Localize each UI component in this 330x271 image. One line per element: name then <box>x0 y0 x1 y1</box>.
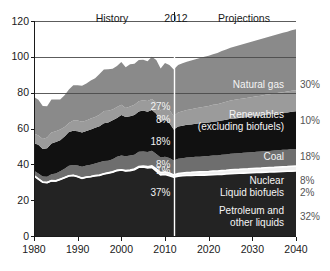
y-tick-label: 40 <box>17 158 29 170</box>
history-label: History <box>96 12 129 24</box>
series-name-label: Renewables <box>229 109 284 120</box>
x-tick-label: 2010 <box>153 243 177 255</box>
series-percent-labels: 30%10%18%8%2%32% <box>300 79 320 222</box>
series-name-label: Natural gas <box>233 79 284 90</box>
series-name-label: Coal <box>263 151 284 162</box>
inline-percent-label: 27% <box>150 101 170 112</box>
y-tick-label: 120 <box>11 15 29 27</box>
divider-year-label: 2012 <box>164 12 188 24</box>
series-percent-label: 2% <box>300 187 315 198</box>
series-name-label: Nuclear <box>250 175 285 186</box>
series-name-label: Liquid biofuels <box>220 187 284 198</box>
y-tick-label: 60 <box>17 122 29 134</box>
stacked-area-chart: 020406080100120 198019902000201020202030… <box>0 0 330 271</box>
x-tick-label: 2000 <box>110 243 134 255</box>
y-tick-label: 20 <box>17 194 29 206</box>
series-percent-label: 18% <box>300 151 320 162</box>
y-tick-label: 100 <box>11 50 29 62</box>
series-name-label-line2: (excluding biofuels) <box>198 121 284 132</box>
y-axis-ticks: 020406080100120 <box>11 15 34 242</box>
y-tick-label: 0 <box>23 230 29 242</box>
series-name-label: Petroleum and <box>219 205 284 216</box>
chart-container: 020406080100120 198019902000201020202030… <box>0 0 330 271</box>
projections-label: Projections <box>218 12 270 24</box>
inline-percent-label: 37% <box>150 187 170 198</box>
inline-percent-label: 8% <box>156 114 171 125</box>
x-axis-ticks: 1980199020002010202020302040 <box>22 237 308 256</box>
x-tick-label: 2030 <box>241 243 265 255</box>
series-percent-label: 30% <box>300 79 320 90</box>
series-percent-label: 10% <box>300 115 320 126</box>
x-tick-label: 2040 <box>284 243 308 255</box>
x-tick-label: 1990 <box>66 243 90 255</box>
series-percent-label: 8% <box>300 175 315 186</box>
series-percent-label: 32% <box>300 211 320 222</box>
x-tick-label: 2020 <box>197 243 221 255</box>
y-tick-label: 80 <box>17 86 29 98</box>
series-name-label-line2: other liquids <box>230 217 284 228</box>
inline-percent-label: 18% <box>150 136 170 147</box>
x-tick-label: 1980 <box>22 243 46 255</box>
inline-percent-label: 1% <box>156 165 171 176</box>
